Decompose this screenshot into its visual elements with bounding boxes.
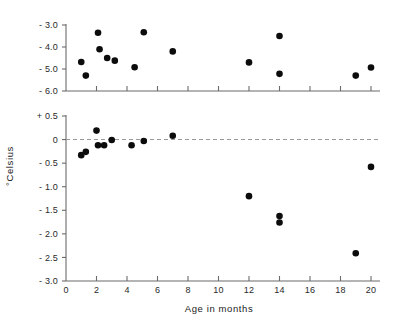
data-point [96, 46, 103, 53]
x-tick-label: 0 [63, 285, 68, 295]
data-point [246, 193, 253, 200]
y-tick-label: - 2.0 [39, 229, 58, 239]
data-point [95, 142, 102, 149]
y-tick-label: - 5.0 [39, 64, 58, 74]
data-point [131, 64, 138, 71]
data-point [104, 55, 111, 62]
y-tick-label: - 1.5 [39, 205, 58, 215]
data-point [83, 72, 90, 79]
data-point [128, 142, 135, 149]
x-tick-label: 14 [274, 285, 284, 295]
y-tick-label: - 3.0 [39, 20, 58, 30]
data-point [108, 137, 115, 144]
y-tick-label: - 1.0 [39, 182, 58, 192]
data-point [246, 59, 253, 66]
x-tick-label: 12 [244, 285, 254, 295]
data-point [101, 142, 108, 149]
y-tick-label: + 0.5 [37, 111, 58, 121]
data-point [276, 71, 283, 78]
data-point [95, 29, 102, 36]
data-point [169, 133, 176, 140]
upper-panel: - 3.0- 4.0- 5.0- 6.0 [39, 20, 380, 96]
data-point [352, 72, 359, 79]
data-point [169, 48, 176, 55]
data-point [276, 213, 283, 220]
data-point [78, 59, 85, 66]
y-tick-label: - 2.5 [39, 253, 58, 263]
y-tick-label: - 6.0 [39, 86, 58, 96]
data-point [140, 29, 147, 36]
y-tick-label: - 4.0 [39, 42, 58, 52]
data-point [112, 57, 119, 64]
x-tick-label: 16 [305, 285, 315, 295]
data-point [276, 219, 283, 226]
y-tick-label: 0 [53, 135, 58, 145]
data-point [276, 33, 283, 40]
lower-panel: + 0.50- 0.5- 1.0- 1.5- 2.0- 2.5- 3.02468… [37, 111, 380, 295]
data-point [140, 138, 147, 145]
x-tick-label: 6 [155, 285, 160, 295]
scatter-figure: - 3.0- 4.0- 5.0- 6.0 + 0.50- 0.5- 1.0- 1… [0, 0, 400, 329]
x-tick-label: 2 [94, 285, 99, 295]
data-point [352, 250, 359, 257]
y-tick-label: - 0.5 [39, 158, 58, 168]
x-tick-label: 4 [124, 285, 129, 295]
x-tick-label: 18 [335, 285, 345, 295]
x-tick-label: 20 [366, 285, 376, 295]
data-point [93, 127, 100, 134]
x-tick-label: 8 [185, 285, 190, 295]
y-axis-title: °Celsius [4, 146, 15, 186]
x-tick-label: 10 [213, 285, 223, 295]
data-point [368, 164, 375, 171]
y-tick-label: - 3.0 [39, 276, 58, 286]
data-point [83, 149, 90, 156]
x-axis-title: Age in months [185, 303, 254, 314]
data-point [368, 64, 375, 71]
